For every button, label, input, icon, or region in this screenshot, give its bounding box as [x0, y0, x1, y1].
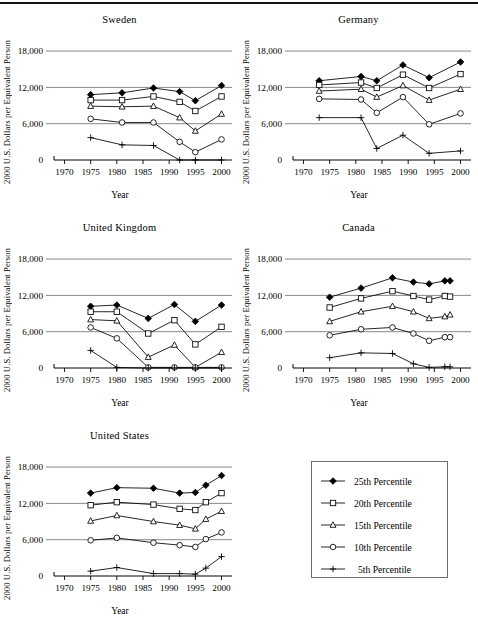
- svg-text:18,000: 18,000: [18, 462, 44, 472]
- x-axis-label-united-kingdom: Year: [20, 398, 220, 408]
- panel-title-sweden: Sweden: [0, 14, 239, 25]
- panel-united-states: United States 2000 U.S. Dollars per Equi…: [0, 430, 239, 622]
- legend-item-label: 10th Percentile: [348, 542, 412, 553]
- svg-text:1975: 1975: [81, 375, 100, 385]
- panel-title-united-states: United States: [0, 430, 239, 441]
- svg-text:0: 0: [38, 363, 43, 373]
- x-axis-label-germany: Year: [259, 190, 459, 200]
- panel-germany: Germany 2000 U.S. Dollars per Equivalent…: [239, 14, 478, 206]
- plot-united-kingdom: 06,00012,00018,0001970197519801985199019…: [0, 236, 239, 406]
- svg-text:6,000: 6,000: [22, 535, 43, 545]
- svg-text:12,000: 12,000: [257, 291, 283, 301]
- svg-text:1970: 1970: [55, 583, 74, 593]
- svg-text:1975: 1975: [320, 167, 339, 177]
- svg-text:1975: 1975: [81, 167, 100, 177]
- svg-text:1995: 1995: [186, 583, 205, 593]
- plot-united-states: 06,00012,00018,0001970197519801985199019…: [0, 444, 239, 614]
- svg-text:1975: 1975: [81, 583, 100, 593]
- svg-text:12,000: 12,000: [18, 291, 44, 301]
- panel-title-germany: Germany: [239, 14, 478, 25]
- svg-text:1980: 1980: [347, 375, 366, 385]
- svg-text:1990: 1990: [160, 167, 179, 177]
- legend: 25th Percentile 20th Percentile 15th Per…: [311, 461, 448, 578]
- svg-text:1990: 1990: [160, 583, 179, 593]
- legend-item: 20th Percentile: [318, 492, 447, 514]
- svg-text:1970: 1970: [55, 375, 74, 385]
- svg-text:18,000: 18,000: [18, 254, 44, 264]
- plot-germany: 06,00012,00018,0001970197519801985199019…: [239, 28, 478, 198]
- svg-text:1990: 1990: [399, 167, 418, 177]
- panel-title-canada: Canada: [239, 222, 478, 233]
- svg-text:12,000: 12,000: [18, 83, 44, 93]
- svg-text:1995: 1995: [186, 167, 205, 177]
- svg-text:12,000: 12,000: [18, 499, 44, 509]
- svg-text:6,000: 6,000: [22, 327, 43, 337]
- svg-text:1980: 1980: [347, 167, 366, 177]
- legend-marker-plus: [318, 562, 348, 576]
- svg-text:1980: 1980: [108, 167, 127, 177]
- panel-sweden: Sweden 2000 U.S. Dollars per Equivalent …: [0, 14, 239, 206]
- legend-marker-open-square: [318, 496, 348, 510]
- legend-item-label: 20th Percentile: [348, 498, 412, 509]
- svg-text:18,000: 18,000: [257, 254, 283, 264]
- svg-text:1985: 1985: [373, 167, 392, 177]
- legend-item: 5th Percentile: [318, 558, 447, 580]
- x-axis-label-sweden: Year: [20, 190, 220, 200]
- svg-text:2000: 2000: [451, 167, 470, 177]
- svg-text:1990: 1990: [399, 375, 418, 385]
- svg-text:6,000: 6,000: [261, 327, 282, 337]
- svg-text:0: 0: [38, 155, 43, 165]
- svg-text:1980: 1980: [108, 583, 127, 593]
- svg-text:6,000: 6,000: [22, 119, 43, 129]
- svg-text:1970: 1970: [294, 167, 313, 177]
- svg-text:18,000: 18,000: [257, 46, 283, 56]
- svg-text:18,000: 18,000: [18, 46, 44, 56]
- svg-text:1995: 1995: [425, 375, 444, 385]
- svg-text:1990: 1990: [160, 375, 179, 385]
- panel-title-united-kingdom: United Kingdom: [0, 222, 239, 233]
- legend-marker-open-circle: [318, 540, 348, 554]
- legend-item: 25th Percentile: [318, 470, 447, 492]
- svg-text:2000: 2000: [212, 583, 231, 593]
- svg-text:12,000: 12,000: [257, 83, 283, 93]
- svg-text:1985: 1985: [373, 375, 392, 385]
- svg-text:1985: 1985: [134, 375, 153, 385]
- svg-text:0: 0: [38, 571, 43, 581]
- panel-canada: Canada 2000 U.S. Dollars per Equivalent …: [239, 222, 478, 414]
- svg-text:1970: 1970: [294, 375, 313, 385]
- plot-sweden: 06,00012,00018,0001970197519801985199019…: [0, 28, 239, 198]
- svg-text:1995: 1995: [186, 375, 205, 385]
- svg-text:2000: 2000: [212, 167, 231, 177]
- svg-text:1985: 1985: [134, 583, 153, 593]
- svg-text:0: 0: [277, 155, 282, 165]
- legend-item: 10th Percentile: [318, 536, 447, 558]
- svg-text:1975: 1975: [320, 375, 339, 385]
- legend-item-label: 25th Percentile: [348, 476, 412, 487]
- svg-text:2000: 2000: [451, 375, 470, 385]
- figure-grid: Sweden 2000 U.S. Dollars per Equivalent …: [0, 0, 478, 626]
- svg-text:2000: 2000: [212, 375, 231, 385]
- x-axis-label-canada: Year: [259, 398, 459, 408]
- svg-text:0: 0: [277, 363, 282, 373]
- svg-text:1985: 1985: [134, 167, 153, 177]
- legend-marker-filled-diamond: [318, 474, 348, 488]
- svg-text:6,000: 6,000: [261, 119, 282, 129]
- x-axis-label-united-states: Year: [20, 606, 220, 616]
- svg-text:1980: 1980: [108, 375, 127, 385]
- legend-item-label: 15th Percentile: [348, 520, 412, 531]
- legend-marker-open-triangle: [318, 518, 348, 532]
- svg-text:1970: 1970: [55, 167, 74, 177]
- svg-text:1995: 1995: [425, 167, 444, 177]
- legend-item: 15th Percentile: [318, 514, 447, 536]
- legend-item-label: 5th Percentile: [348, 564, 411, 575]
- panel-united-kingdom: United Kingdom 2000 U.S. Dollars per Equ…: [0, 222, 239, 414]
- plot-canada: 06,00012,00018,0001970197519801985199019…: [239, 236, 478, 406]
